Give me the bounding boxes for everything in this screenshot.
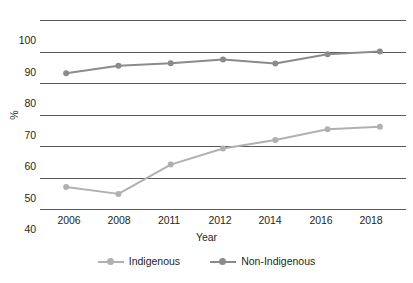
data-point-marker[interactable] xyxy=(377,49,383,55)
legend-item-non-indigenous[interactable]: Non-Indigenous xyxy=(210,255,315,267)
legend-label: Non-Indigenous xyxy=(241,255,315,267)
data-point-marker[interactable] xyxy=(63,70,69,76)
x-tick-label: 2016 xyxy=(298,214,344,226)
x-tick-label: 2018 xyxy=(348,214,394,226)
data-point-marker[interactable] xyxy=(220,146,226,152)
legend-marker-icon xyxy=(98,257,124,266)
legend-item-indigenous[interactable]: Indigenous xyxy=(98,255,180,267)
x-tick-label: 2012 xyxy=(197,214,243,226)
x-tick-label: 2008 xyxy=(96,214,142,226)
series-line-indigenous xyxy=(66,127,380,194)
data-point-marker[interactable] xyxy=(168,162,174,168)
legend-label: Indigenous xyxy=(129,255,180,267)
data-point-marker[interactable] xyxy=(272,60,278,66)
data-point-marker[interactable] xyxy=(272,137,278,143)
data-point-marker[interactable] xyxy=(377,124,383,130)
data-point-marker[interactable] xyxy=(325,126,331,132)
x-tick-label: 2011 xyxy=(146,214,192,226)
data-point-marker[interactable] xyxy=(115,63,121,69)
data-point-marker[interactable] xyxy=(63,184,69,190)
x-tick-label: 2014 xyxy=(247,214,293,226)
x-axis-title: Year xyxy=(0,231,413,243)
x-axis-tick-labels: 2006 2008 2011 2012 2014 2016 2018 xyxy=(40,214,406,230)
line-chart: 100 90 80 70 60 50 40 % 2006 2008 2011 2… xyxy=(0,0,413,283)
chart-legend: Indigenous Non-Indigenous xyxy=(0,253,413,269)
data-point-marker[interactable] xyxy=(115,191,121,197)
legend-marker-icon xyxy=(210,257,236,266)
x-tick-label: 2006 xyxy=(46,214,92,226)
data-point-marker[interactable] xyxy=(220,56,226,62)
data-point-marker[interactable] xyxy=(325,51,331,57)
data-point-marker[interactable] xyxy=(168,60,174,66)
